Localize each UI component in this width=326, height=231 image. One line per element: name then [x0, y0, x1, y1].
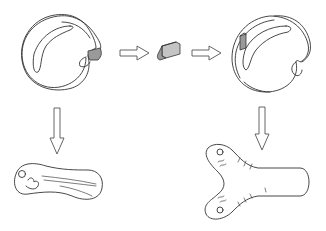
- host-result: [205, 144, 309, 219]
- donor-embryo: [22, 15, 102, 90]
- arrow-host-down: [255, 107, 269, 150]
- excised-tissue: [157, 42, 180, 60]
- host-embryo: [232, 16, 311, 92]
- arrow-tissue-to-host: [192, 46, 221, 60]
- donor-result: [15, 164, 103, 200]
- arrow-donor-to-tissue: [120, 46, 149, 60]
- arrow-donor-down: [50, 108, 64, 154]
- diagram-canvas: [0, 0, 326, 231]
